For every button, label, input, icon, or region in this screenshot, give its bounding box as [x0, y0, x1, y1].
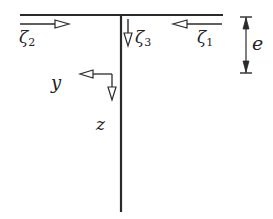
y-axis-arrow-icon	[80, 70, 112, 78]
zeta2-symbol: ζ	[19, 27, 28, 47]
zeta2-label: ζ2	[19, 29, 35, 48]
zeta3-subscript: 3	[144, 36, 151, 49]
z-axis-arrow-icon	[108, 74, 116, 100]
zeta1-subscript: 1	[206, 36, 213, 49]
zeta2-subscript: 2	[28, 36, 35, 49]
zeta3-symbol: ζ	[135, 27, 144, 47]
z-axis-label: z	[96, 116, 105, 133]
zeta1-label: ζ1	[197, 29, 213, 48]
zeta3-label: ζ3	[135, 29, 151, 48]
e-label: e	[252, 34, 263, 53]
zeta1-symbol: ζ	[197, 27, 206, 47]
y-axis-label: y	[51, 74, 61, 92]
zeta3-arrow-icon	[124, 19, 132, 46]
e-dimension-icon	[240, 17, 252, 73]
